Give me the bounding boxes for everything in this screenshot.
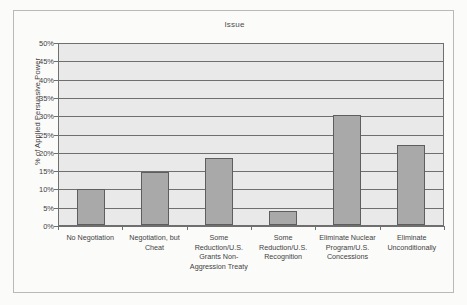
x-axis-category-label: No Negotiation — [58, 233, 122, 271]
bar-slot — [251, 44, 315, 225]
y-tick-label: 10% — [14, 185, 54, 194]
y-tick-label: 0% — [14, 222, 54, 231]
x-tick-mark — [122, 226, 123, 230]
y-tick-label: 15% — [14, 167, 54, 176]
y-tick-mark — [54, 153, 58, 154]
y-tick-mark — [54, 80, 58, 81]
y-tick-label: 40% — [14, 75, 54, 84]
x-tick-mark — [251, 226, 252, 230]
y-tick-mark — [54, 189, 58, 190]
y-tick-mark — [54, 61, 58, 62]
y-tick-label: 45% — [14, 57, 54, 66]
y-tick-label: 30% — [14, 112, 54, 121]
bar-slot — [123, 44, 187, 225]
x-tick-mark — [380, 226, 381, 230]
bar[interactable] — [141, 172, 170, 225]
y-tick-label: 5% — [14, 203, 54, 212]
x-axis-category-label: Negotiation, but Cheat — [122, 233, 186, 271]
x-axis-ticks — [58, 226, 444, 231]
bar[interactable] — [205, 158, 234, 225]
plot-wrap: 50%45%40%35%30%25%20%15%10%5%0% — [58, 43, 444, 226]
x-axis-category-label: Eliminate Nuclear Program/U.S. Concessio… — [315, 233, 379, 271]
y-tick-mark — [54, 43, 58, 44]
y-tick-label: 20% — [14, 148, 54, 157]
x-axis-category-label: Some Reduction/U.S. Recognition — [251, 233, 315, 271]
y-tick-mark — [54, 208, 58, 209]
bar-slot — [315, 44, 379, 225]
bar-slot — [59, 44, 123, 225]
x-axis-category-label: Some Reduction/U.S. Grants Non-Aggressio… — [187, 233, 251, 271]
chart-frame: Issue % of Applied Persuasive Power 50%4… — [13, 10, 454, 293]
bar[interactable] — [333, 115, 362, 225]
bar-slot — [379, 44, 443, 225]
bars-layer — [59, 44, 443, 225]
y-tick-label: 35% — [14, 93, 54, 102]
bar[interactable] — [77, 189, 106, 225]
bar[interactable] — [269, 211, 298, 225]
x-axis-category-label: Eliminate Unconditionally — [380, 233, 444, 271]
y-tick-label: 25% — [14, 130, 54, 139]
chart-title: Issue — [14, 20, 455, 29]
bar-slot — [187, 44, 251, 225]
x-tick-mark — [187, 226, 188, 230]
x-tick-mark — [444, 226, 445, 230]
bar[interactable] — [397, 145, 426, 225]
y-tick-mark — [54, 116, 58, 117]
y-tick-label: 50% — [14, 39, 54, 48]
x-tick-mark — [58, 226, 59, 230]
y-tick-mark — [54, 98, 58, 99]
y-tick-mark — [54, 135, 58, 136]
y-tick-mark — [54, 171, 58, 172]
x-axis-labels: No NegotiationNegotiation, but CheatSome… — [58, 233, 444, 271]
x-tick-mark — [315, 226, 316, 230]
